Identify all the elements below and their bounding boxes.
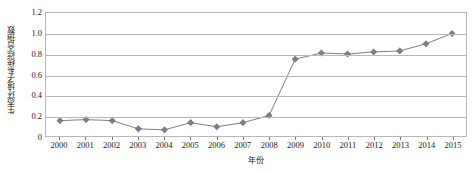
x-axis-tick-label: 2014 xyxy=(418,140,435,150)
gridline xyxy=(46,96,466,97)
data-point-marker xyxy=(214,124,220,130)
x-axis-tick-label: 2002 xyxy=(103,140,120,150)
x-axis-tick-label: 2006 xyxy=(208,140,225,150)
y-axis-tick-label: 1.0 xyxy=(31,28,42,38)
y-axis-tick-label: 0.4 xyxy=(31,90,42,100)
data-point-marker xyxy=(423,41,429,47)
data-point-marker xyxy=(135,126,141,132)
gridline xyxy=(46,55,466,56)
ecological-index-line-chart: 生态环境子系统综合指数 00.20.40.60.81.01.2 20002001… xyxy=(0,0,475,172)
y-axis-title: 生态环境子系统综合指数 xyxy=(0,0,22,140)
x-axis-tick-label: 2000 xyxy=(51,140,68,150)
data-point-marker xyxy=(57,118,63,124)
x-axis-tick-label: 2010 xyxy=(313,140,330,150)
data-point-marker xyxy=(397,48,403,54)
y-axis-title-label: 生态环境子系统综合指数 xyxy=(7,26,16,114)
x-axis-tick-label: 2001 xyxy=(77,140,94,150)
data-point-marker xyxy=(240,120,246,126)
x-axis-tick-label: 2005 xyxy=(182,140,199,150)
x-axis-tick-label: 2003 xyxy=(129,140,146,150)
series-line xyxy=(60,33,452,129)
x-axis-tick-label: 2009 xyxy=(287,140,304,150)
y-axis-tick-label: 1.2 xyxy=(31,7,42,17)
y-axis-tick-label: 0.2 xyxy=(31,111,42,121)
x-axis-tick-label: 2011 xyxy=(340,140,357,150)
x-axis-tick-label: 2015 xyxy=(445,140,462,150)
gridline xyxy=(46,76,466,77)
y-axis-tick-label: 0.8 xyxy=(31,49,42,59)
x-axis-tick-label: 2012 xyxy=(366,140,383,150)
gridline xyxy=(46,117,466,118)
x-axis-title: 年份 xyxy=(45,154,467,165)
x-axis-tick-label: 2007 xyxy=(234,140,251,150)
y-axis-tick-label: 0 xyxy=(38,132,42,142)
x-axis-tick-label: 2013 xyxy=(392,140,409,150)
x-axis-tick-label: 2004 xyxy=(156,140,173,150)
data-point-marker xyxy=(109,118,115,124)
plot-area xyxy=(45,12,467,137)
gridline xyxy=(46,34,466,35)
y-axis-tick-label: 0.6 xyxy=(31,70,42,80)
y-axis-tick-labels: 00.20.40.60.81.01.2 xyxy=(20,0,44,142)
x-axis-tick-label: 2008 xyxy=(261,140,278,150)
data-point-marker xyxy=(292,56,298,62)
data-point-marker xyxy=(161,127,167,133)
data-point-marker xyxy=(188,120,194,126)
